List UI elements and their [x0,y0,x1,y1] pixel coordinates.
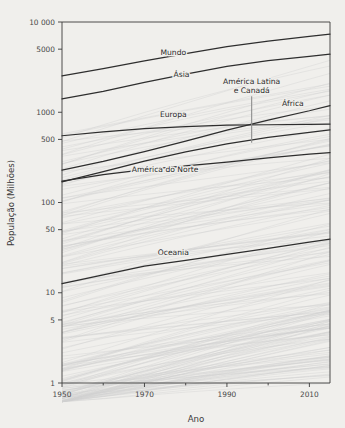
series-label: Ásia [174,69,190,79]
population-log-chart: 1510501005001000500010 000 1950197019902… [0,0,345,428]
series-label: África [282,98,304,108]
y-tick-label: 50 [46,225,56,234]
y-tick-label: 5 [50,316,55,325]
y-tick-label: 500 [41,135,55,144]
series-label: Europa [160,110,187,119]
y-tick-label: 5000 [36,45,55,54]
x-axis-title: Ano [188,414,205,424]
x-tick-label: 1950 [53,390,72,399]
y-tick-label: 1000 [36,108,55,117]
chart-svg: 1510501005001000500010 000 1950197019902… [0,0,345,428]
series-label: Oceania [158,248,189,257]
x-tick-label: 1970 [135,390,154,399]
series-label: América do Norte [132,165,199,174]
y-tick-label: 10 000 [29,18,55,27]
y-tick-label: 10 [46,288,56,297]
y-tick-label: 100 [41,198,55,207]
x-tick-label: 1990 [218,390,237,399]
y-axis-title: População (Milhões) [6,160,16,246]
y-tick-label: 1 [50,379,55,388]
x-tick-label: 2010 [300,390,319,399]
series-label: Mundo [160,48,186,57]
